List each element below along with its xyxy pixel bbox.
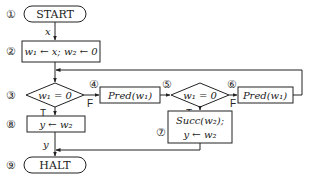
node-pred-6: ⑥ Pred(w₁) bbox=[227, 78, 293, 103]
node-number-4: ④ bbox=[89, 78, 99, 91]
d3-false-label: F bbox=[87, 98, 93, 109]
assign-8-label: y ← w₂ bbox=[39, 119, 73, 130]
pred-6-label: Pred(w₁) bbox=[242, 90, 287, 101]
node-number-5: ⑤ bbox=[162, 78, 172, 91]
halt-label: HALT bbox=[39, 159, 71, 172]
edge-7-9 bbox=[56, 143, 200, 150]
node-number-7: ⑦ bbox=[156, 126, 166, 139]
flowchart: ① START x ② w₁ ← x; w₂ ← 0 ③ w₁ = 0 F ④ … bbox=[0, 0, 311, 186]
node-decision-5: ⑤ w₁ = 0 bbox=[162, 78, 229, 107]
node-number-6: ⑥ bbox=[227, 78, 237, 91]
node-pred-4: ④ Pred(w₁) bbox=[89, 78, 160, 103]
init-label: w₁ ← x; w₂ ← 0 bbox=[24, 46, 98, 57]
start-label: START bbox=[36, 8, 74, 21]
node-assign-8: ⑧ y ← w₂ bbox=[6, 116, 85, 132]
node-number-1: ① bbox=[6, 8, 16, 21]
input-label: x bbox=[45, 26, 51, 37]
node-number-3: ③ bbox=[6, 89, 16, 102]
decision-3-label: w₁ = 0 bbox=[38, 90, 72, 101]
succ-7-line2: y ← w₂ bbox=[183, 129, 217, 140]
node-start: ① START bbox=[6, 6, 86, 22]
node-init: ② w₁ ← x; w₂ ← 0 bbox=[6, 41, 100, 62]
node-succ-7: ⑦ Succ(w₂); y ← w₂ bbox=[156, 111, 232, 143]
output-label: y bbox=[42, 139, 49, 150]
pred-4-label: Pred(w₁) bbox=[107, 90, 152, 101]
node-number-9: ⑨ bbox=[6, 159, 16, 172]
succ-7-line1: Succ(w₂); bbox=[176, 115, 224, 126]
decision-5-label: w₁ = 0 bbox=[183, 90, 217, 101]
node-number-8: ⑧ bbox=[6, 118, 16, 131]
d5-false-label: F bbox=[230, 98, 236, 109]
node-decision-3: ③ w₁ = 0 bbox=[6, 83, 84, 107]
node-halt: ⑨ HALT bbox=[6, 157, 86, 173]
node-number-2: ② bbox=[6, 45, 16, 58]
